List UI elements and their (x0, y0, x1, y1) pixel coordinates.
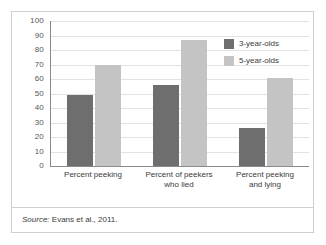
y-tick-label: 0 (39, 162, 44, 170)
legend-swatch (224, 56, 234, 66)
chart-legend: 3-year-olds5-year-olds (224, 36, 308, 70)
x-axis-label: Percent peeking (50, 170, 136, 190)
bar (67, 95, 93, 166)
y-tick-label: 60 (35, 75, 44, 83)
source-text: Evans et al., 2011. (52, 215, 118, 224)
bar-chart: 0102030405060708090100 3-year-olds5-year… (12, 12, 313, 207)
legend-label: 5-year-olds (239, 56, 279, 65)
bar (95, 65, 121, 167)
y-tick-label: 10 (35, 148, 44, 156)
y-tick-label: 70 (35, 61, 44, 69)
y-tick-label: 100 (30, 17, 44, 25)
bar-group (51, 21, 137, 166)
source-divider (12, 207, 313, 208)
source-label: Source: (22, 215, 50, 224)
figure-frame: 0102030405060708090100 3-year-olds5-year… (11, 11, 314, 233)
x-axis: Percent peekingPercent of peekerswho lie… (50, 170, 308, 190)
bar (153, 85, 179, 166)
y-tick-label: 90 (35, 32, 44, 40)
bar (239, 128, 265, 166)
legend-item: 5-year-olds (224, 53, 308, 68)
x-axis-label: Percent of peekerswho lied (136, 170, 222, 190)
legend-item: 3-year-olds (224, 36, 308, 51)
bar-group (137, 21, 223, 166)
source-caption: Source: Evans et al., 2011. (22, 215, 117, 225)
y-tick-label: 50 (35, 90, 44, 98)
bar (267, 78, 293, 166)
bar (181, 40, 207, 166)
y-tick-label: 30 (35, 119, 44, 127)
legend-label: 3-year-olds (239, 39, 279, 48)
y-tick-label: 80 (35, 46, 44, 54)
legend-swatch (224, 39, 234, 49)
y-tick-label: 40 (35, 104, 44, 112)
y-axis: 0102030405060708090100 (12, 21, 48, 166)
x-axis-label: Percent peekingand lying (222, 170, 308, 190)
y-tick-label: 20 (35, 133, 44, 141)
